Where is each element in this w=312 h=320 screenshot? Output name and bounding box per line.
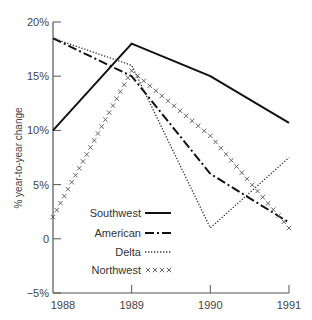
legend-item-delta: Delta xyxy=(115,246,171,258)
legend-label: Delta xyxy=(115,246,142,258)
x-tick-label: 1988 xyxy=(51,299,75,311)
y-tick-label: 0 xyxy=(43,233,49,245)
x-axis-ticks: 1988198919901991 xyxy=(51,285,301,311)
legend-item-southwest: Southwest xyxy=(90,207,171,219)
series-american xyxy=(53,38,289,222)
y-axis-ticks: 20%15%10%5%0−5% xyxy=(27,16,61,299)
series-lines xyxy=(51,38,291,230)
y-tick-label: 10% xyxy=(27,124,49,136)
x-tick-label: 1989 xyxy=(119,299,143,311)
y-tick-label: −5% xyxy=(27,287,50,299)
series-southwest xyxy=(53,44,289,131)
y-tick-label: 20% xyxy=(27,16,49,28)
legend-item-northwest: Northwest xyxy=(91,264,171,276)
y-tick-label: 5% xyxy=(33,179,49,191)
legend-label: American xyxy=(95,227,141,239)
legend: SouthwestAmericanDeltaNorthwest xyxy=(90,207,172,276)
legend-label: Southwest xyxy=(90,207,141,219)
axes xyxy=(53,22,289,293)
line-chart: 20%15%10%5%0−5% 1988198919901991 % year-… xyxy=(0,0,312,320)
legend-item-american: American xyxy=(95,227,171,239)
x-tick-label: 1991 xyxy=(277,299,301,311)
y-tick-label: 15% xyxy=(27,70,49,82)
legend-label: Northwest xyxy=(91,264,141,276)
x-tick-label: 1990 xyxy=(198,299,222,311)
y-axis-label: % year-to-year change xyxy=(13,107,24,209)
